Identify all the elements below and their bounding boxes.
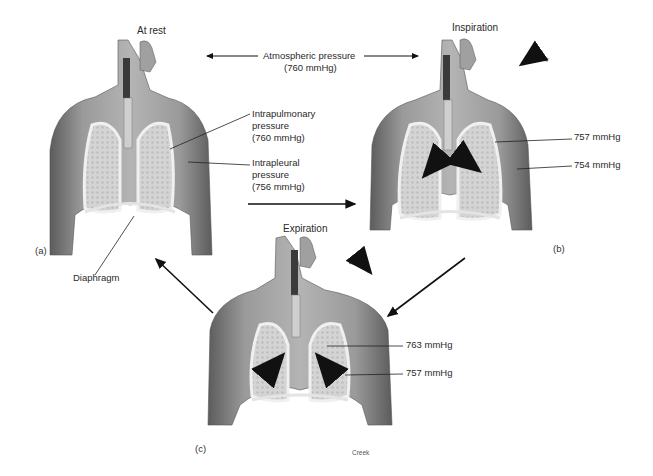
- atmospheric-pressure-value: (760 mmHg): [284, 62, 337, 74]
- intrapleural-label-b: 754 mmHg: [574, 159, 620, 171]
- panel-b-letter: (b): [553, 243, 565, 254]
- intrapulmonary-label-c: 763 mmHg: [406, 339, 452, 351]
- intrapleural-label-c: 757 mmHg: [406, 367, 452, 379]
- intrapulmonary-label-a-line1: Intrapulmonary: [252, 108, 315, 120]
- panel-a-letter: (a): [35, 245, 47, 256]
- torso-illustration-at-rest: [50, 40, 212, 255]
- panel-a-title: At rest: [137, 25, 166, 36]
- panel-c-letter: (c): [195, 443, 206, 454]
- intrapleural-label-a-line2: pressure: [252, 169, 289, 181]
- intrapulmonary-label-b: 757 mmHg: [574, 131, 620, 143]
- intrapulmonary-label-a-line2: pressure: [252, 120, 289, 132]
- intrapleural-label-a-line1: Intrapleural: [252, 157, 300, 169]
- leader-diaphragm-a: [95, 216, 134, 275]
- panel-c-title: Expiration: [283, 223, 327, 234]
- airflow-in-arrow: [522, 58, 548, 64]
- panel-b-title: Inspiration: [452, 22, 498, 33]
- intrapleural-label-a-line3: (756 mmHg): [252, 181, 305, 193]
- atmospheric-pressure-label: Atmospheric pressure: [263, 50, 355, 62]
- intrapulmonary-label-a-line3: (760 mmHg): [252, 132, 305, 144]
- artist-credit: Creek: [352, 449, 369, 456]
- cycle-arrow-b-to-c: [388, 258, 465, 316]
- cycle-arrow-c-to-a: [156, 259, 213, 313]
- airflow-out-arrow: [349, 262, 370, 272]
- diaphragm-label: Diaphragm: [73, 272, 119, 284]
- torso-illustration-inspiration: [370, 39, 532, 230]
